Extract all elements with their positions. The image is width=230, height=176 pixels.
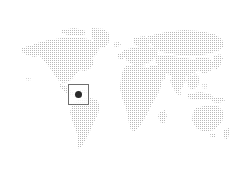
world-map-screenshot: Northern South America World map with hi… (0, 0, 230, 176)
location-marker[interactable] (68, 84, 89, 105)
location-marker-dot (75, 91, 82, 98)
world-map-graphic (0, 0, 230, 176)
world-map-figure: Northern South America World map with hi… (0, 0, 230, 176)
land-philippines (202, 83, 208, 89)
map-background (0, 0, 230, 176)
